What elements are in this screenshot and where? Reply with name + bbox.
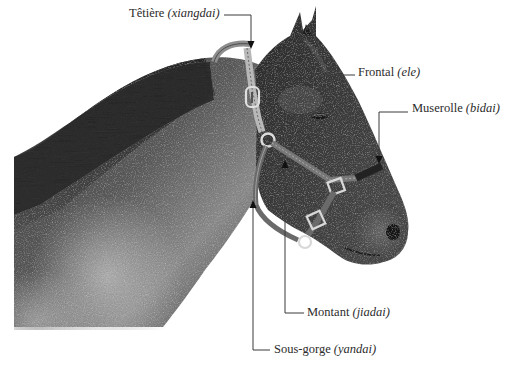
label-term: Montant xyxy=(307,305,349,319)
horse-head xyxy=(255,6,408,265)
label-pinyin: (yandai) xyxy=(334,342,376,356)
leader-line-muserolle xyxy=(379,112,408,160)
label-montant: Montant (jiadai) xyxy=(307,306,390,319)
label-term: Têtière xyxy=(129,6,164,20)
label-pinyin: (ele) xyxy=(397,65,420,79)
label-frontal: Frontal (ele) xyxy=(358,66,420,79)
label-sous-gorge: Sous-gorge (yandai) xyxy=(274,343,376,356)
label-muserolle: Muserolle (bidai) xyxy=(412,102,500,115)
horse-illustration xyxy=(0,0,505,368)
label-term: Frontal xyxy=(358,65,394,79)
label-tetiere: Têtière (xiangdai) xyxy=(129,7,220,20)
label-pinyin: (jiadai) xyxy=(352,305,390,319)
label-pinyin: (xiangdai) xyxy=(168,6,220,20)
label-term: Sous-gorge xyxy=(274,342,331,356)
halter-diagram: Têtière (xiangdai) Frontal (ele) Muserol… xyxy=(0,0,505,368)
label-pinyin: (bidai) xyxy=(466,101,500,115)
leader-line-sousgorge xyxy=(253,203,270,350)
label-term: Muserolle xyxy=(412,101,463,115)
